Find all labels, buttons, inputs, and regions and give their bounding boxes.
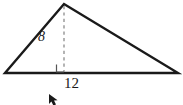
triangle-outline bbox=[5, 4, 178, 73]
geometry-figure: 8 12 bbox=[0, 0, 183, 105]
base-label: 12 bbox=[64, 76, 79, 91]
right-angle-marker-icon bbox=[57, 65, 65, 73]
triangle-diagram-svg bbox=[0, 0, 183, 105]
height-label: 8 bbox=[38, 30, 45, 44]
arrow-cursor-icon bbox=[49, 94, 58, 105]
